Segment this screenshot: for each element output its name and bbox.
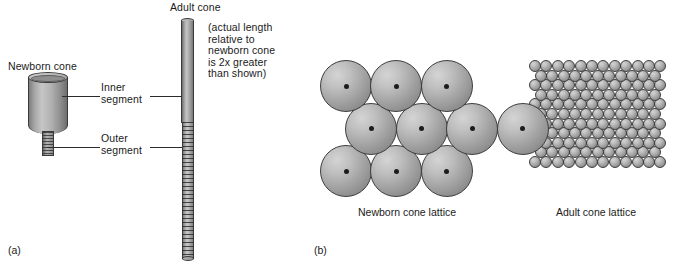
adult-cone-scale-note: (actual length relative to newborn cone … [208,22,275,80]
adult-outer-segment-ridges [183,122,193,259]
adult-cone-label: Adult cone [170,2,221,14]
lattice-cell [497,103,549,155]
newborn-inner-segment [28,77,68,134]
lattice-cell-center-dot [344,169,349,174]
leader-line-outer-segment-newborn [47,147,100,148]
newborn-outer-segment-ridges [43,132,53,155]
leader-line-outer-segment-adult [150,147,182,148]
newborn-cone-label: Newborn cone [8,61,77,73]
lattice-cell-center-dot [444,84,449,89]
panel-a-tag: (a) [8,244,21,256]
lattice-cell-center-dot [394,84,399,89]
leader-line-inner-segment-adult [150,96,182,97]
lattice-cell [586,60,598,72]
lattice-cell [654,60,666,72]
adult-inner-segment [181,21,194,123]
callout-inner-segment-label: Inner segment [101,82,142,105]
lattice-cell [421,60,473,112]
lattice-cell-center-dot [470,126,475,131]
callout-outer-segment-label: Outer segment [101,133,142,156]
lattice-cell [320,60,372,112]
panel-b-tag: (b) [314,244,327,256]
newborn-lattice-caption: Newborn cone lattice [358,206,456,218]
lattice-cell [643,60,655,72]
lattice-cell-center-dot [520,126,525,131]
lattice-cell [529,60,541,72]
lattice-cell-center-dot [444,169,449,174]
figure-root: Newborn cone Adult cone (actual length r… [0,0,679,271]
lattice-cell-center-dot [369,126,374,131]
lattice-cell [609,60,621,72]
newborn-outer-segment [42,131,54,156]
lattice-cell-center-dot [344,84,349,89]
lattice-cell [575,60,587,72]
lattice-cell-center-dot [419,126,424,131]
adult-cone-bottom-ellipse [182,256,194,261]
lattice-cell [632,60,644,72]
leader-line-inner-segment-newborn [62,96,100,97]
adult-lattice-caption: Adult cone lattice [556,206,636,218]
adult-outer-segment [182,122,194,259]
lattice-cell [552,60,564,72]
lattice-cell-center-dot [394,169,399,174]
newborn-cone-rim [31,75,65,82]
